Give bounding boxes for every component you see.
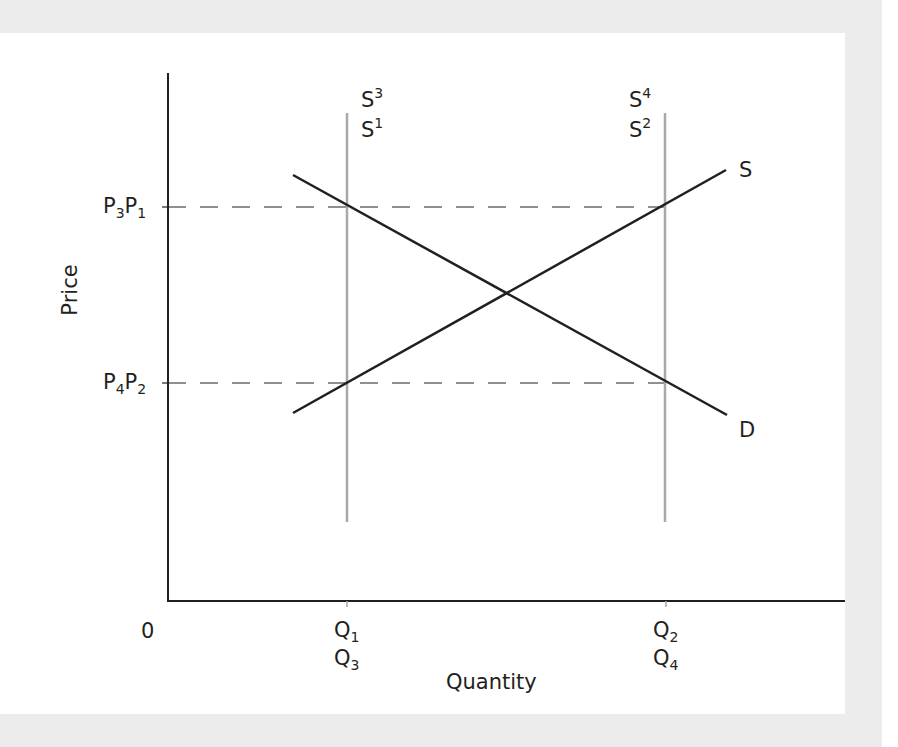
label-sub: 3	[351, 657, 360, 673]
x-axis-label: Quantity	[446, 672, 537, 693]
supply-curve	[293, 170, 726, 413]
label-text: Q	[653, 618, 670, 642]
supply-label-s3: S3	[361, 86, 383, 111]
label-sub: 3	[116, 205, 125, 221]
label-sub: 2	[137, 381, 146, 397]
label-sub: 1	[137, 205, 146, 221]
label-text: S	[361, 88, 374, 112]
label-text: Q	[334, 646, 351, 670]
quantity-label-q4: Q4	[653, 648, 678, 672]
label-text: P	[103, 370, 116, 394]
label-sup: 3	[374, 85, 383, 101]
label-text: Q	[334, 618, 351, 642]
label-sub: 4	[116, 381, 125, 397]
label-text: P	[125, 370, 138, 394]
supply-label-s2: S2	[629, 116, 651, 141]
supply-label-s4: S4	[629, 86, 651, 111]
label-text: S	[629, 88, 642, 112]
label-text: S	[629, 118, 642, 142]
quantity-label-q3: Q3	[334, 648, 359, 672]
label-sub: 4	[670, 657, 679, 673]
label-sub: 2	[670, 629, 679, 645]
supply-label-s1: S1	[361, 116, 383, 141]
quantity-label-q1: Q1	[334, 620, 359, 644]
price-label-p3-p1: P3P1	[103, 196, 146, 220]
price-label-p4-p2: P4P2	[103, 372, 146, 396]
quantity-label-q2: Q2	[653, 620, 678, 644]
label-sub: 1	[351, 629, 360, 645]
label-text: P	[103, 194, 116, 218]
y-axis-label: Price	[58, 260, 82, 320]
label-sup: 2	[642, 115, 651, 131]
demand-curve-label: D	[739, 420, 755, 441]
label-text: Q	[653, 646, 670, 670]
supply-curve-label: S	[739, 160, 752, 181]
label-text: S	[361, 118, 374, 142]
label-text: P	[125, 194, 138, 218]
demand-curve	[293, 175, 727, 415]
origin-label: 0	[141, 621, 154, 642]
label-sup: 4	[642, 85, 651, 101]
label-sup: 1	[374, 115, 383, 131]
